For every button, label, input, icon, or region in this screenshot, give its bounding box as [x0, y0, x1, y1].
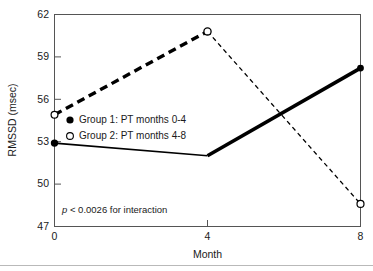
- group1-point-month-8: [357, 65, 364, 72]
- group1-segment-0-4: [55, 143, 208, 156]
- y-tick-label-56: 56: [37, 93, 49, 105]
- x-tick-label-8: 8: [358, 230, 364, 242]
- group2-segment-0-4: [55, 31, 208, 114]
- y-axis-title: RMSSD (msec): [6, 84, 18, 157]
- bottom-divider: [0, 265, 373, 266]
- y-tick-label-47: 47: [37, 220, 49, 232]
- legend-marker-open-circle-icon: [67, 133, 74, 140]
- chart-legend: Group 1: PT months 0-4 Group 2: PT month…: [66, 114, 186, 141]
- y-tick-label-53: 53: [37, 135, 49, 147]
- legend-label-group-1: Group 1: PT months 0-4: [79, 114, 187, 125]
- x-tick-label-0: 0: [52, 230, 58, 242]
- y-tick-label-59: 59: [37, 50, 49, 62]
- group1-point-month-0: [51, 139, 58, 146]
- group1-segment-4-8: [208, 68, 361, 156]
- x-axis-ticks: [55, 220, 361, 227]
- legend-label-group-2: Group 2: PT months 4-8: [79, 130, 187, 141]
- group2-point-month-8: [357, 200, 364, 207]
- x-axis-title: Month: [193, 248, 222, 260]
- x-tick-label-4: 4: [205, 230, 211, 242]
- y-tick-label-50: 50: [37, 177, 49, 189]
- figure-container: 62 59 56 53 50 47 0 4 8 Month RMSSD (mse…: [0, 0, 373, 271]
- y-axis-ticks: [55, 15, 62, 227]
- p-value-annotation: p < 0.0026 for interaction: [61, 204, 167, 215]
- p-value-text: < 0.0026 for interaction: [67, 204, 167, 215]
- group2-point-month-0: [51, 111, 58, 118]
- line-chart: 62 59 56 53 50 47 0 4 8 Month RMSSD (mse…: [0, 0, 373, 271]
- group2-point-month-4: [204, 28, 211, 35]
- legend-marker-filled-circle-icon: [66, 116, 73, 123]
- group2-segment-4-8: [208, 31, 361, 204]
- y-tick-label-62: 62: [37, 8, 49, 20]
